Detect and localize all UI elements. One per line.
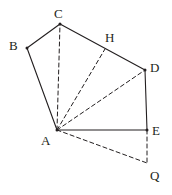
- edge-D-E: [145, 70, 147, 130]
- edge-A-D: [57, 70, 145, 130]
- vertex-label-a: A: [41, 134, 50, 147]
- vertex-dot-b: [26, 47, 29, 50]
- edge-A-C: [57, 24, 60, 130]
- vertex-dot-e: [146, 129, 149, 132]
- edge-A-H: [57, 49, 105, 130]
- edge-C-D: [60, 24, 145, 70]
- vertex-dot-c: [59, 23, 62, 26]
- dashed-edge-group: [57, 24, 147, 163]
- vertex-label-e: E: [152, 124, 160, 137]
- vertex-label-q: Q: [150, 169, 159, 182]
- geometry-figure: A B C D E H Q: [0, 0, 172, 195]
- vertex-label-d: D: [150, 61, 159, 74]
- vertex-dot-a: [56, 129, 59, 132]
- vertex-label-h: H: [105, 31, 114, 44]
- edge-B-C: [27, 24, 60, 48]
- solid-edge-group: [27, 24, 147, 130]
- geometry-canvas: [0, 0, 172, 195]
- vertex-label-b: B: [9, 39, 18, 52]
- vertex-label-c: C: [54, 7, 63, 20]
- edge-A-Q: [57, 130, 147, 163]
- edge-A-B: [27, 48, 57, 130]
- vertex-dot-d: [144, 69, 147, 72]
